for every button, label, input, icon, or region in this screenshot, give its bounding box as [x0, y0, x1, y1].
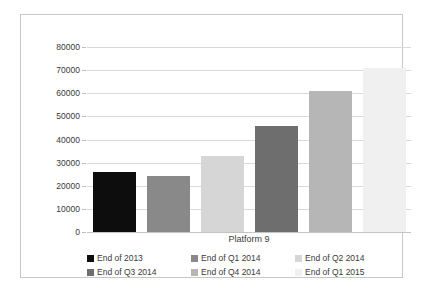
legend-label: End of 2013: [97, 254, 143, 263]
legend-item[interactable]: End of Q2 2014: [295, 252, 397, 265]
legend-swatch-icon: [191, 269, 198, 276]
y-axis-tick-label: 20000: [56, 182, 87, 191]
legend-label: End of Q2 2014: [305, 254, 365, 263]
legend-item[interactable]: End of Q1 2015: [295, 266, 397, 279]
y-axis-tick-label: 10000: [56, 205, 87, 214]
legend-item[interactable]: End of Q4 2014: [191, 266, 293, 279]
y-axis-tick-label: 30000: [56, 158, 87, 167]
legend-item[interactable]: End of 2013: [87, 252, 189, 265]
bar-group: [87, 47, 411, 232]
bar-end-of-q1-2014: [147, 176, 190, 232]
y-axis-tick-label: 70000: [56, 66, 87, 75]
y-axis-tick-label: 60000: [56, 89, 87, 98]
legend-swatch-icon: [87, 269, 94, 276]
legend-label: End of Q4 2014: [201, 268, 261, 277]
bar-end-of-q1-2015: [363, 68, 406, 232]
legend-swatch-icon: [191, 255, 198, 262]
legend-label: End of Q1 2014: [201, 254, 261, 263]
legend-item[interactable]: End of Q1 2014: [191, 252, 293, 265]
plot-area: 0100002000030000400005000060000700008000…: [87, 47, 411, 232]
legend-item[interactable]: End of Q3 2014: [87, 266, 189, 279]
legend-swatch-icon: [87, 255, 94, 262]
y-axis-tick-label: 50000: [56, 112, 87, 121]
bar-end-of-q3-2014: [255, 126, 298, 232]
bar-chart: 0100002000030000400005000060000700008000…: [0, 0, 422, 294]
y-axis-tick-label: 0: [75, 228, 87, 237]
y-axis-tick-label: 80000: [56, 43, 87, 52]
legend-swatch-icon: [295, 269, 302, 276]
chart-legend: End of 2013End of Q1 2014End of Q2 2014E…: [87, 252, 397, 279]
legend-label: End of Q1 2015: [305, 268, 365, 277]
gridline: [87, 232, 411, 233]
y-axis-tick-label: 40000: [56, 135, 87, 144]
legend-swatch-icon: [295, 255, 302, 262]
bar-end-of-2013: [93, 172, 136, 232]
chart-frame: 0100002000030000400005000060000700008000…: [20, 14, 403, 278]
x-axis-category-label: Platform 9: [87, 235, 411, 245]
bar-end-of-q4-2014: [309, 91, 352, 232]
legend-label: End of Q3 2014: [97, 268, 157, 277]
bar-end-of-q2-2014: [201, 156, 244, 232]
